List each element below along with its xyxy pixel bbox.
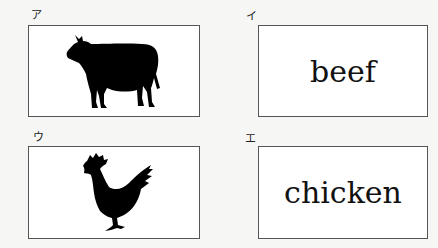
word-chicken: chicken	[284, 175, 402, 210]
card-label-a: ア	[31, 10, 42, 22]
word-beef: beef	[310, 54, 376, 89]
card-chicken-word: chicken	[258, 146, 428, 239]
rooster-silhouette-icon	[73, 151, 155, 235]
card-label-e: エ	[245, 133, 256, 145]
card-rooster-image	[28, 146, 200, 239]
card-label-u: ウ	[33, 132, 44, 144]
card-label-i: イ	[246, 11, 257, 23]
cow-silhouette-icon	[64, 32, 164, 110]
card-beef-word: beef	[258, 25, 428, 117]
card-cow-image	[28, 25, 200, 117]
